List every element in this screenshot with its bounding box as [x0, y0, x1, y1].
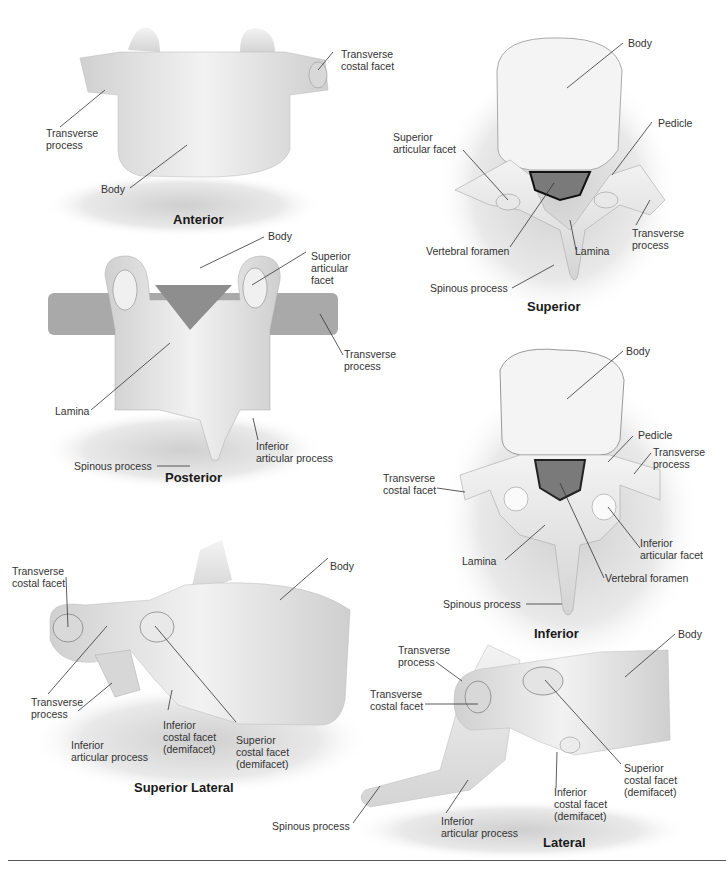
label-lateral-transverse-process: Transverse process	[398, 644, 450, 668]
label-posterior-transverse-process: Transverse process	[344, 348, 396, 372]
label-lateral-superior-costal-facet: Superior costal facet (demifacet)	[624, 762, 677, 798]
label-sl-body: Body	[330, 560, 354, 572]
label-superior-body: Body	[628, 37, 652, 49]
label-anterior-transverse-process: Transverse process	[46, 127, 98, 151]
title-inferior: Inferior	[534, 626, 579, 641]
label-posterior-lamina: Lamina	[55, 405, 89, 417]
label-posterior-inferior-articular-process: Inferior articular process	[256, 440, 333, 464]
label-superior-vertebral-foramen: Vertebral foramen	[426, 245, 509, 257]
label-inferior-transverse-process: Transverse process	[653, 446, 705, 470]
label-inferior-articular-facet: Inferior articular facet	[640, 537, 703, 561]
label-inferior-lamina: Lamina	[462, 555, 496, 567]
label-inferior-vertebral-foramen: Vertebral foramen	[605, 572, 688, 584]
label-sl-superior-costal-facet: Superior costal facet (demifacet)	[236, 734, 289, 770]
lateral-view	[350, 645, 690, 860]
label-posterior-body: Body	[268, 230, 292, 242]
label-inferior-transverse-costal-facet: Transverse costal facet	[383, 472, 436, 496]
title-lateral: Lateral	[543, 835, 586, 850]
title-posterior: Posterior	[165, 470, 222, 485]
label-lateral-inferior-articular-process: Inferior articular process	[441, 815, 518, 839]
title-superior: Superior	[527, 299, 580, 314]
label-anterior-transverse-costal-facet: Transverse costal facet	[341, 48, 394, 72]
label-sl-inferior-costal-facet: Inferior costal facet (demifacet)	[163, 719, 216, 755]
label-superior-spinous-process: Spinous process	[430, 282, 508, 294]
superior-view	[437, 38, 677, 320]
label-inferior-spinous-process: Spinous process	[443, 598, 521, 610]
label-lateral-spinous-process: Spinous process	[272, 820, 350, 832]
label-superior-articular-facet: Superior articular facet	[393, 131, 456, 155]
label-anterior-body: Body	[101, 183, 125, 195]
label-superior-transverse-process: Transverse process	[632, 227, 684, 251]
label-lateral-body: Body	[678, 628, 702, 640]
label-lateral-transverse-costal-facet: Transverse costal facet	[370, 688, 423, 712]
inferior-view	[440, 349, 700, 670]
label-posterior-spinous-process: Spinous process	[74, 460, 152, 472]
label-sl-transverse-costal-facet: Transverse costal facet	[12, 565, 65, 589]
label-inferior-pedicle: Pedicle	[638, 429, 672, 441]
label-lateral-inferior-costal-facet: Inferior costal facet (demifacet)	[554, 786, 607, 822]
label-sl-transverse-process: Transverse process	[31, 696, 83, 720]
title-superior-lateral: Superior Lateral	[134, 780, 234, 795]
label-inferior-body: Body	[626, 345, 650, 357]
label-posterior-superior-articular-facet: Superior articular facet	[311, 250, 351, 286]
title-anterior: Anterior	[173, 212, 224, 227]
label-superior-pedicle: Pedicle	[658, 117, 692, 129]
label-superior-lamina: Lamina	[575, 245, 609, 257]
footer-rule	[8, 860, 726, 861]
label-sl-inferior-articular-process: Inferior articular process	[71, 739, 148, 763]
